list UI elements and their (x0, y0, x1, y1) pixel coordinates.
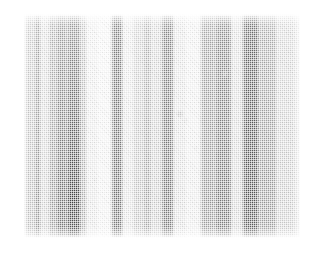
density-band (201, 14, 215, 238)
density-band (41, 14, 49, 238)
density-band (87, 14, 99, 238)
density-band (232, 14, 243, 238)
density-band (243, 14, 259, 238)
density-band (49, 14, 56, 238)
density-band (56, 14, 67, 238)
density-band (99, 14, 112, 238)
density-band (24, 14, 31, 238)
density-band (277, 14, 300, 238)
density-band (215, 14, 232, 238)
density-band (67, 14, 81, 238)
density-band (143, 14, 152, 238)
density-band (152, 14, 162, 238)
density-band (133, 14, 143, 238)
density-band (123, 14, 133, 238)
density-band (259, 14, 277, 238)
density-band (162, 14, 174, 238)
scanned-gel-image (24, 14, 300, 238)
figure-page (0, 0, 315, 265)
density-band (187, 14, 201, 238)
density-band (112, 14, 123, 238)
density-band (174, 14, 187, 238)
density-band-layer (24, 14, 300, 238)
